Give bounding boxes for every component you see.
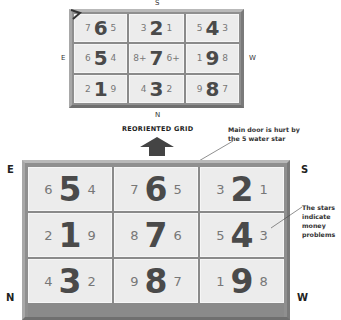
mountain-star: 4 (141, 84, 147, 94)
water-star: 9 (111, 84, 117, 94)
annotation-line: money (302, 221, 335, 230)
bottom-cell-r2c2: 876 (114, 213, 198, 257)
mountain-star: 2 (85, 84, 91, 94)
water-star: 6+ (166, 53, 179, 63)
bottom-compass-south: S (301, 164, 308, 175)
water-star: 3 (259, 228, 267, 243)
mountain-star: 3 (216, 182, 224, 197)
base-star: 4 (231, 216, 254, 255)
bottom-compass-west: W (297, 292, 308, 303)
annotation-line: The stars (302, 203, 335, 212)
mountain-star: 1 (197, 53, 203, 63)
base-star: 1 (59, 216, 82, 255)
base-star: 2 (150, 16, 164, 40)
mountain-star: 5 (216, 228, 224, 243)
top-cell-center: 8+76+ (129, 44, 183, 72)
mountain-star: 2 (44, 228, 52, 243)
mountain-star: 7 (85, 23, 91, 33)
bottom-cell-r3c3: 198 (200, 259, 284, 303)
base-star: 7 (145, 216, 168, 255)
top-flying-star-grid: 765 321 543 654 8+76+ 198 219 432 987 (74, 14, 239, 103)
stars-annotation: The stars indicate money problems (302, 203, 335, 239)
top-cell-sw: 543 (186, 14, 239, 42)
door-marker-icon (70, 9, 82, 20)
leader-line-stars (268, 205, 304, 231)
top-cell-s: 321 (129, 14, 183, 42)
water-star: 1 (166, 23, 172, 33)
bottom-cell-r2c1: 219 (28, 213, 112, 257)
water-star: 9 (87, 228, 95, 243)
water-star: 2 (87, 274, 95, 289)
water-star: 4 (87, 182, 95, 197)
top-cell-ne: 219 (74, 75, 127, 103)
base-star: 9 (205, 46, 219, 70)
water-star: 5 (111, 23, 117, 33)
annotation-line: Main door is hurt by (228, 125, 300, 134)
base-star: 3 (150, 77, 164, 101)
top-cell-n: 432 (129, 75, 183, 103)
top-cell-nw: 987 (186, 75, 239, 103)
water-star: 3 (222, 23, 228, 33)
top-compass-south: S (155, 0, 159, 7)
bottom-cell-r1c2: 765 (114, 167, 198, 211)
water-star: 4 (111, 53, 117, 63)
base-star: 8 (205, 77, 219, 101)
base-star: 5 (59, 170, 82, 209)
annotation-line: problems (302, 230, 335, 239)
bottom-flying-star-grid: 654 765 321 219 876 543 432 987 198 (28, 167, 284, 317)
mountain-star: 6 (44, 182, 52, 197)
top-cell-e: 654 (74, 44, 127, 72)
base-star: 5 (94, 46, 108, 70)
bottom-cell-r1c1: 654 (28, 167, 112, 211)
mountain-star: 5 (197, 23, 203, 33)
mountain-star: 4 (44, 274, 52, 289)
water-star: 8 (259, 274, 267, 289)
water-star: 7 (173, 274, 181, 289)
base-star: 8 (145, 262, 168, 301)
bottom-compass-north: N (6, 292, 14, 303)
mountain-star: 3 (141, 23, 147, 33)
mountain-star: 6 (85, 53, 91, 63)
base-star: 3 (59, 262, 82, 301)
base-star: 2 (231, 170, 254, 209)
base-star: 6 (145, 170, 168, 209)
base-star: 7 (150, 46, 164, 70)
water-star: 7 (222, 84, 228, 94)
base-star: 4 (205, 16, 219, 40)
mountain-star: 9 (197, 84, 203, 94)
water-star: 2 (166, 84, 172, 94)
water-star: 8 (222, 53, 228, 63)
base-star: 1 (94, 77, 108, 101)
annotation-line: indicate (302, 212, 335, 221)
base-star: 6 (94, 16, 108, 40)
top-compass-east: E (61, 54, 65, 62)
top-compass-west: W (249, 54, 256, 62)
mountain-star: 9 (130, 274, 138, 289)
bottom-compass-east: E (7, 164, 14, 175)
mountain-star: 8+ (133, 53, 146, 63)
water-star: 6 (173, 228, 181, 243)
mountain-star: 7 (130, 182, 138, 197)
mountain-star: 8 (130, 228, 138, 243)
top-cell-w: 198 (186, 44, 239, 72)
bottom-cell-r3c2: 987 (114, 259, 198, 303)
top-compass-north: N (155, 111, 160, 119)
bottom-cell-r3c1: 432 (28, 259, 112, 303)
mountain-star: 1 (216, 274, 224, 289)
water-star: 5 (173, 182, 181, 197)
reoriented-grid-caption: REORIENTED GRID (122, 125, 193, 133)
water-star: 1 (259, 182, 267, 197)
base-star: 9 (231, 262, 254, 301)
